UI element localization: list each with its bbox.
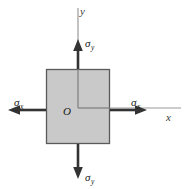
sigma-subscript: y	[91, 177, 94, 186]
y-axis-label: y	[80, 6, 85, 17]
sigma-x-right-label: σx	[131, 97, 140, 108]
sigma-subscript: y	[91, 43, 94, 52]
sigma-subscript: x	[20, 102, 23, 111]
stress-arrow-sigma-y-bottom	[73, 144, 83, 179]
sigma-y-bottom-label: σy	[85, 172, 94, 183]
sigma-glyph: σ	[85, 171, 90, 183]
sigma-glyph: σ	[85, 37, 90, 49]
sigma-glyph: σ	[131, 96, 136, 108]
sigma-x-left-label: σx	[14, 97, 23, 108]
stress-element-figure: y x O σy σy σx σx	[0, 0, 187, 189]
sigma-glyph: σ	[14, 96, 19, 108]
stress-arrow-sigma-x-right	[110, 105, 147, 115]
sigma-subscript: x	[137, 102, 140, 111]
x-axis-label: x	[166, 112, 171, 123]
sigma-y-top-label: σy	[85, 38, 94, 49]
figure-canvas	[0, 0, 187, 189]
stress-arrow-sigma-y-top	[73, 39, 83, 69]
origin-label: O	[63, 106, 71, 117]
